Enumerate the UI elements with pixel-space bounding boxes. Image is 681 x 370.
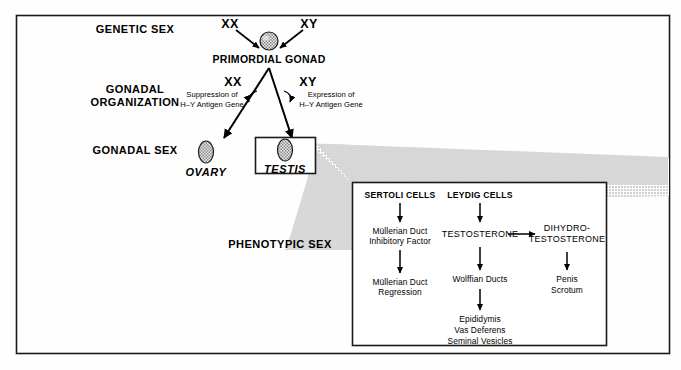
sexual-differentiation-figure: GENETIC SEX GONADAL ORGANIZATION GONADAL… [0, 0, 681, 370]
arrow-to-testis [269, 68, 292, 138]
karyotype-xy-genetic: XY [300, 17, 318, 31]
external-genitalia-line1: Penis [556, 274, 577, 285]
annotation-suppression-line2: H–Y Antigen Gene [180, 100, 244, 109]
testosterone-node: TESTOSTERONE [442, 229, 518, 240]
dihydrotestosterone-line2: TESTOSTERONE [529, 234, 605, 245]
primordial-gonad-label: PRIMORDIAL GONAD [212, 54, 325, 66]
leader-hook-left [248, 91, 257, 102]
mullerian-regression-line2: Regression [378, 287, 421, 298]
stage-label-genetic-sex: GENETIC SEX [96, 23, 174, 35]
diagram-graphics-layer [0, 0, 681, 370]
leydig-cells-heading: LEYDIG CELLS [447, 191, 513, 201]
annotation-suppression-line1: Suppression of [186, 90, 237, 99]
ovary-icon [199, 141, 214, 163]
primordial-gonad-icon [260, 32, 278, 50]
leader-hook-right [284, 91, 291, 102]
derivatives-line1: Epididymis [459, 314, 501, 325]
stage-label-gonadal-sex: GONADAL SEX [93, 144, 178, 156]
testis-label: TESTIS [264, 163, 306, 175]
arrow-xy-to-gonad [280, 30, 303, 48]
perspective-shade-fan-upper [316, 144, 668, 186]
karyotype-xx-genetic: XX [221, 17, 239, 31]
wolffian-ducts-node: Wolffian Ducts [452, 274, 507, 285]
arrow-xx-to-gonad [236, 30, 259, 48]
annotation-expression-line2: H–Y Antigen Gene [299, 100, 363, 109]
testis-icon [278, 139, 293, 161]
derivatives-line3: Seminal Vesicles [448, 336, 513, 347]
karyotype-xy-gonadal: XY [299, 75, 317, 89]
derivatives-line2: Vas Deferens [454, 325, 505, 336]
dihydrotestosterone-line1: DIHYDRO- [544, 223, 591, 234]
external-genitalia-line2: Scrotum [551, 285, 583, 296]
annotation-expression-line1: Expression of [308, 90, 355, 99]
stage-label-phenotypic-sex: PHENOTYPIC SEX [228, 238, 332, 250]
sertoli-cells-heading: SERTOLI CELLS [365, 191, 436, 201]
stage-label-gonadal-organization-line2: ORGANIZATION [91, 96, 180, 108]
ovary-label: OVARY [185, 166, 226, 178]
stage-label-gonadal-organization-line1: GONADAL [106, 83, 164, 95]
mullerian-inhibitory-factor-line2: Inhibitory Factor [369, 236, 431, 247]
karyotype-xx-gonadal: XX [224, 75, 242, 89]
